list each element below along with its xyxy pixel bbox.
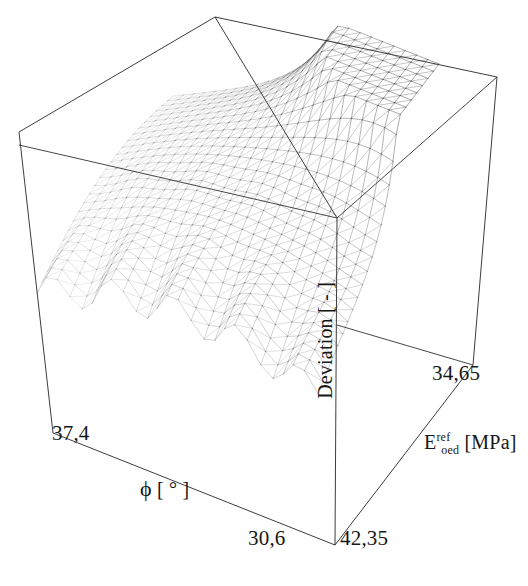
surface-mesh [37,26,439,393]
axes-box [19,17,497,545]
y-axis-max-tick: 34,65 [432,363,480,384]
x-axis-unit: [ ° ] [157,478,189,500]
x-axis-title: ϕ [ ° ] [140,478,189,500]
y-axis-min-tick: 42,35 [340,528,388,549]
e-symbol: Erefoed [424,431,459,453]
e-subscript: oed [441,443,459,457]
e-base: E [424,431,436,453]
z-axis-title: Deviation [ - ] [315,282,335,399]
y-axis-title: Erefoed [MPa] [424,432,517,452]
phi-symbol: ϕ [140,476,152,501]
x-axis-max-tick: 37,4 [52,423,90,444]
y-axis-unit: [MPa] [464,431,516,453]
surface-plot-figure: 37,4 30,6 42,35 34,65 ϕ [ ° ] Erefoed [M… [0,0,528,586]
plot-canvas [0,0,528,586]
x-axis-min-tick: 30,6 [248,528,286,549]
